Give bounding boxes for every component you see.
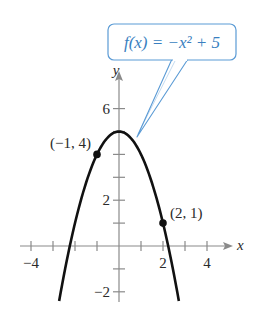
data-point-label: (2, 1) [170,205,203,222]
axes: −42462−2xy [20,62,244,302]
data-points: (−1, 4)(2, 1) [50,135,202,227]
function-label: f(x) = −x² + 5 [124,33,220,52]
x-axis-label: x [236,237,244,253]
callout-tail-inner [138,59,176,134]
y-tick-label: −2 [94,284,110,300]
parabola-chart: −42462−2xy (−1, 4)(2, 1) f(x) = −x² + 5 [0,0,264,333]
y-axis-label: y [111,62,120,78]
y-tick-label: 2 [103,192,111,208]
callout-tail [137,59,188,137]
x-tick-label: −4 [23,255,39,271]
x-tick-label: 2 [159,255,167,271]
y-tick-label: 6 [103,101,111,117]
data-point-marker [93,151,101,159]
function-callout: f(x) = −x² + 5 [108,24,236,137]
x-tick-label: 4 [203,255,211,271]
data-point-marker [159,219,167,227]
callout-seam [173,58,187,61]
data-point-label: (−1, 4) [50,135,91,152]
